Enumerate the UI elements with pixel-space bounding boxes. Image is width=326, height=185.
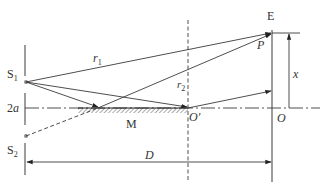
rays <box>26 33 271 108</box>
virtual-ray-s2 <box>26 108 98 136</box>
mirror-hatch <box>78 108 188 113</box>
ray-s1-to-oprime <box>26 82 187 107</box>
label-s2: S2 <box>7 143 18 159</box>
ray-oprime-to-screen <box>188 91 271 108</box>
ray-r1 <box>26 33 271 82</box>
label-2a: 2a <box>7 101 19 115</box>
label-point-p: P <box>256 38 265 52</box>
label-origin-o: O <box>277 111 286 125</box>
label-s1: S1 <box>7 67 18 83</box>
label-r2: r2 <box>177 78 185 93</box>
label-mirror-m: M <box>126 117 137 131</box>
label-o-prime: O′ <box>189 110 201 124</box>
label-x: x <box>292 67 299 81</box>
label-r1: r1 <box>93 51 102 67</box>
label-screen-e: E <box>267 9 274 23</box>
lloyd-mirror-diagram: E P S1 S2 2a r1 r2 M O′ O x D <box>0 0 326 185</box>
label-d: D <box>144 148 154 162</box>
ray-s1-to-mirror <box>26 82 98 107</box>
